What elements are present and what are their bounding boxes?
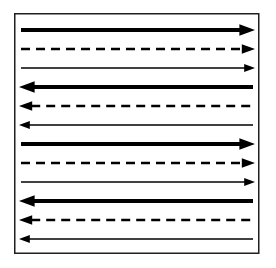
diagram-canvas — [0, 0, 276, 268]
arrows-diagram — [0, 0, 276, 268]
